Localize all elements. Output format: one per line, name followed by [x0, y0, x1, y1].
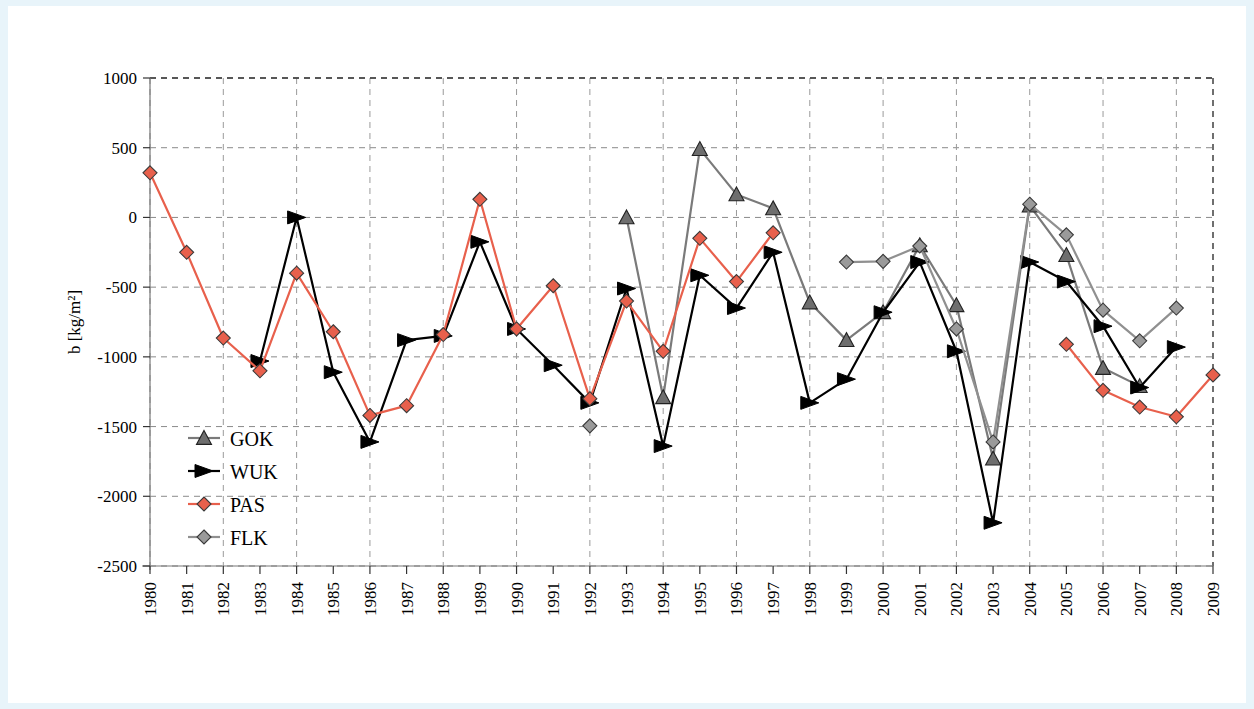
legend-item-label: FLK [230, 527, 268, 549]
x-tick-label: 2000 [874, 582, 893, 616]
legend-item-label: WUK [230, 461, 278, 483]
chart-canvas: 10005000-500-1000-1500-2000-2500 1980198… [8, 6, 1246, 703]
x-tick-label: 1994 [654, 582, 673, 617]
mass-balance-line-chart: 10005000-500-1000-1500-2000-2500 1980198… [8, 6, 1246, 703]
x-tick-label: 1991 [544, 582, 563, 616]
x-tick-label: 1984 [288, 582, 307, 617]
x-tick-label: 2005 [1057, 582, 1076, 616]
x-tick-label: 1986 [361, 582, 380, 616]
x-tick-label: 2007 [1131, 582, 1150, 617]
y-axis-title: b [kg/m²] [65, 290, 84, 354]
y-axis-tick-labels: 10005000-500-1000-1500-2000-2500 [97, 69, 137, 576]
y-tick-label: 0 [129, 208, 138, 227]
x-tick-label: 1988 [434, 582, 453, 616]
x-tick-label: 2002 [947, 582, 966, 616]
x-tick-label: 1999 [837, 582, 856, 616]
y-tick-label: -500 [106, 278, 137, 297]
x-tick-label: 1985 [324, 582, 343, 616]
figure-panel: 10005000-500-1000-1500-2000-2500 1980198… [8, 6, 1246, 703]
x-tick-label: 1982 [214, 582, 233, 616]
y-axis-label-text: b [kg/m²] [65, 290, 84, 354]
x-tick-label: 2008 [1167, 582, 1186, 616]
x-tick-label: 2003 [984, 582, 1003, 616]
x-tick-label: 1980 [141, 582, 160, 616]
x-tick-label: 1996 [727, 582, 746, 616]
y-tick-label: 500 [112, 139, 138, 158]
x-tick-label: 1983 [251, 582, 270, 616]
x-tick-label: 1989 [471, 582, 490, 616]
x-axis-tick-labels: 1980198119821983198419851986198719881989… [141, 582, 1223, 617]
y-tick-label: -2500 [97, 557, 137, 576]
x-tick-label: 1997 [764, 582, 783, 617]
y-tick-label: -1500 [97, 418, 137, 437]
x-tick-label: 1990 [508, 582, 527, 616]
y-tick-label: -1000 [97, 348, 137, 367]
legend-item-label: PAS [230, 494, 265, 516]
y-tick-label: 1000 [103, 69, 137, 88]
x-tick-label: 1981 [178, 582, 197, 616]
x-tick-label: 1993 [618, 582, 637, 616]
x-tick-label: 2009 [1204, 582, 1223, 616]
x-tick-label: 1995 [691, 582, 710, 616]
x-tick-label: 2001 [911, 582, 930, 616]
grid-layer [150, 78, 1213, 566]
x-tick-label: 1992 [581, 582, 600, 616]
x-tick-label: 1987 [398, 582, 417, 617]
x-tick-label: 2006 [1094, 582, 1113, 616]
x-tick-label: 2004 [1021, 582, 1040, 617]
y-tick-label: -2000 [97, 487, 137, 506]
x-tick-label: 1998 [801, 582, 820, 616]
legend-item-label: GOK [230, 428, 274, 450]
